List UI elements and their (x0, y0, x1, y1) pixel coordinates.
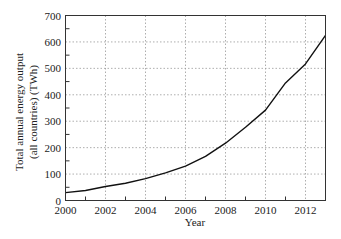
x-axis-title: Year (185, 216, 206, 228)
plot-frame (66, 16, 326, 201)
x-tick-label: 2002 (95, 204, 117, 216)
y-tick-label: 200 (45, 142, 62, 154)
y-axis-title: Total annual energy output (all countrie… (13, 53, 40, 171)
minor-ticks (66, 29, 286, 201)
y-tick-label: 700 (45, 10, 62, 22)
y-tick-label: 300 (45, 115, 62, 127)
x-tick-label: 2006 (175, 204, 198, 216)
y-axis-title-line-2: (all countries) (TWh) (27, 65, 40, 159)
y-tick-label: 100 (45, 168, 62, 180)
y-tick-label: 500 (45, 62, 62, 74)
y-axis-title-line-1: Total annual energy output (13, 53, 25, 171)
y-tick-labels: 0100200300400500600700 (45, 10, 62, 207)
x-tick-label: 2012 (295, 204, 317, 216)
line-chart: 2000200220042006200820102012 01002003004… (0, 0, 341, 239)
y-tick-label: 400 (45, 89, 62, 101)
x-tick-labels: 2000200220042006200820102012 (55, 204, 317, 216)
y-tick-label: 0 (56, 195, 62, 207)
y-tick-label: 600 (45, 36, 62, 48)
grid-lines (66, 16, 326, 201)
data-line (66, 35, 326, 192)
x-tick-label: 2010 (255, 204, 278, 216)
x-tick-label: 2008 (215, 204, 238, 216)
x-tick-label: 2004 (135, 204, 158, 216)
